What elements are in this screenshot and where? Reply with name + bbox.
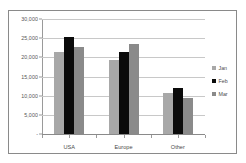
bar-usa-jan[interactable]: [54, 52, 64, 134]
y-axis-tick-label: 30,000: [21, 16, 38, 22]
bar-other-feb[interactable]: [173, 88, 183, 134]
y-axis-tick-label: 10,000: [21, 93, 38, 99]
y-tick-mark: [39, 95, 42, 96]
x-tick-mark: [124, 135, 125, 138]
bar-group-other: [163, 19, 193, 134]
bar-usa-feb[interactable]: [64, 37, 74, 134]
bar-usa-mar[interactable]: [74, 47, 84, 134]
plot-inner: -5,00010,00015,00020,00025,00030,000USAE…: [42, 19, 205, 135]
y-tick-mark: [39, 57, 42, 58]
bar-europe-mar[interactable]: [129, 44, 139, 134]
x-tick-mark: [178, 135, 179, 138]
y-axis-tick-label: 5,000: [24, 112, 38, 118]
x-axis-boundary-tick: [42, 135, 43, 138]
y-axis-tick-label: -: [36, 131, 38, 137]
legend-item-jan[interactable]: Jan: [212, 65, 228, 71]
x-axis-tick-label-other: Other: [171, 144, 185, 150]
legend-swatch-feb: [212, 79, 216, 83]
bar-other-mar[interactable]: [183, 98, 193, 134]
bar-europe-jan[interactable]: [109, 60, 119, 134]
x-axis-boundary-tick: [151, 135, 152, 138]
chart-legend: JanFebMar: [212, 65, 228, 97]
y-axis-tick-label: 20,000: [21, 54, 38, 60]
x-axis-boundary-tick: [96, 135, 97, 138]
y-tick-mark: [39, 114, 42, 115]
legend-label-mar: Mar: [219, 91, 228, 97]
bar-europe-feb[interactable]: [119, 52, 129, 134]
bar-group-europe: [109, 19, 139, 134]
y-axis-tick-label: 15,000: [21, 74, 38, 80]
y-axis-tick-label: 25,000: [21, 35, 38, 41]
legend-label-jan: Jan: [219, 65, 228, 71]
bar-group-usa: [54, 19, 84, 134]
bar-other-jan[interactable]: [163, 93, 173, 134]
legend-label-feb: Feb: [219, 78, 228, 84]
plot-area: -5,00010,00015,00020,00025,00030,000USAE…: [42, 19, 205, 135]
x-axis-boundary-tick: [205, 135, 206, 138]
x-axis-tick-label-europe: Europe: [114, 144, 132, 150]
x-tick-mark: [69, 135, 70, 138]
title-text-remnant: ····· ···· ······: [22, 0, 62, 2]
y-tick-mark: [39, 19, 42, 20]
y-tick-mark: [39, 76, 42, 77]
y-tick-mark: [39, 38, 42, 39]
legend-swatch-jan: [212, 66, 216, 70]
cut-off-title-strip: ····· ···· ······: [0, 0, 246, 7]
chart-frame: -5,00010,00015,00020,00025,00030,000USAE…: [8, 10, 237, 154]
legend-item-feb[interactable]: Feb: [212, 78, 228, 84]
x-axis-tick-label-usa: USA: [63, 144, 75, 150]
legend-item-mar[interactable]: Mar: [212, 91, 228, 97]
legend-swatch-mar: [212, 92, 216, 96]
